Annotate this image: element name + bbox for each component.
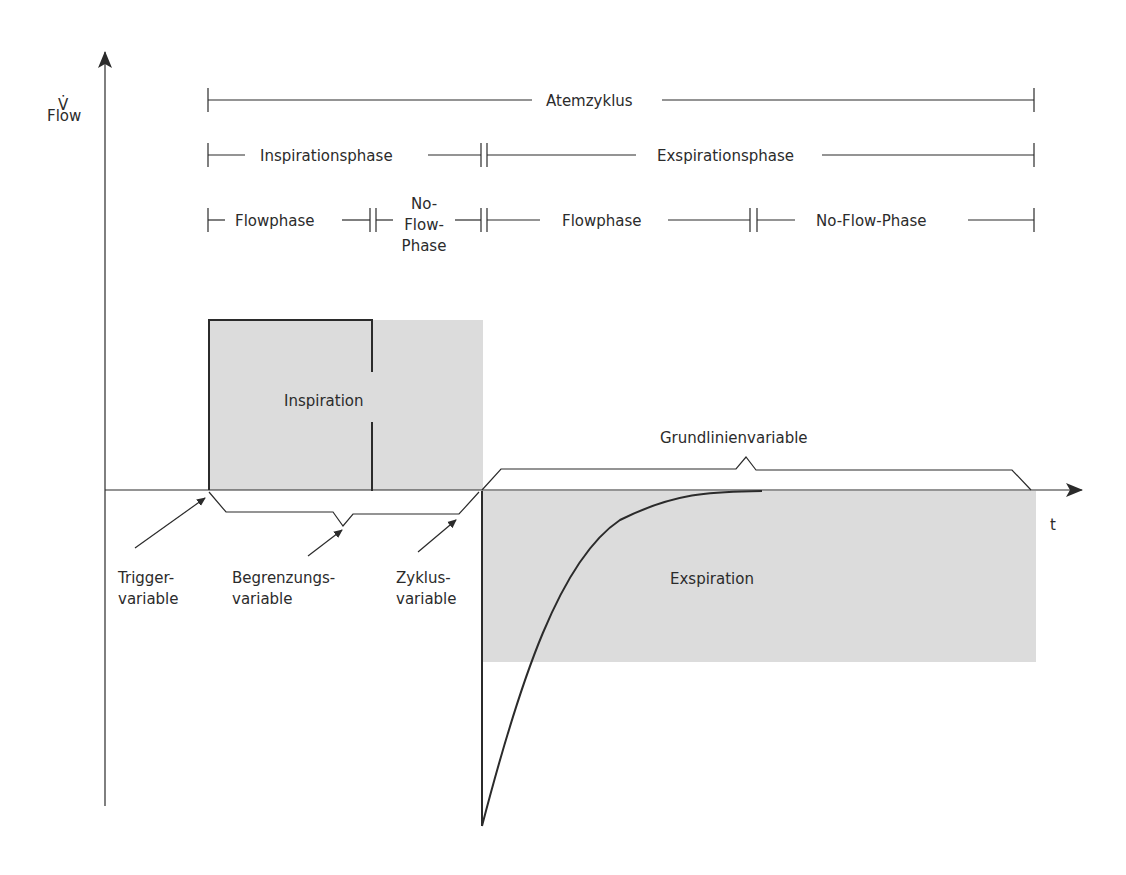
insp-noflow-label-3: Phase — [402, 237, 447, 255]
insp-noflow-label-2: Flow- — [404, 216, 444, 234]
inspiration-label: Inspiration — [284, 392, 364, 410]
expiration-phase-label: Exspirationsphase — [657, 147, 794, 165]
insp-flowphase-label: Flowphase — [235, 212, 315, 230]
trigger-label-1: Trigger- — [117, 569, 174, 587]
phase-row: Inspirationsphase Exspirationsphase — [208, 143, 1034, 167]
x-axis-label: t — [1050, 516, 1056, 534]
flow-diagram: V̇ Flow t Inspiration Exspiration Atemzy… — [0, 0, 1126, 875]
trigger-arrow — [135, 498, 205, 548]
subphase-row: Flowphase No- Flow- Phase Flowphase No-F… — [208, 195, 1034, 255]
limit-arrow — [308, 530, 342, 556]
limit-label-2: variable — [232, 590, 293, 608]
limit-bracket — [209, 492, 479, 526]
cycle-arrow — [418, 520, 456, 552]
breath-cycle-row: Atemzyklus — [208, 88, 1034, 112]
expiration-region — [482, 491, 1036, 662]
cycle-label-1: Zyklus- — [396, 569, 451, 587]
breath-cycle-label: Atemzyklus — [546, 92, 633, 110]
insp-noflow-label-1: No- — [411, 195, 437, 213]
y-axis-label: Flow — [47, 107, 81, 125]
trigger-label-2: variable — [118, 590, 179, 608]
baseline-variable-label: Grundlinienvariable — [660, 429, 808, 447]
exp-flowphase-label: Flowphase — [562, 212, 642, 230]
exp-noflow-label: No-Flow-Phase — [816, 212, 927, 230]
cycle-label-2: variable — [396, 590, 457, 608]
baseline-bracket — [482, 457, 1031, 490]
expiration-label: Exspiration — [670, 570, 754, 588]
inspiration-phase-label: Inspirationsphase — [260, 147, 393, 165]
limit-label-1: Begrenzungs- — [232, 569, 335, 587]
